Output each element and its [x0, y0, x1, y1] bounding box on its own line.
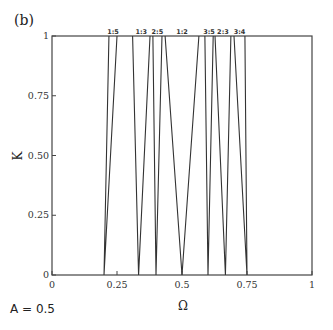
tongue-label: 3:5 — [203, 28, 215, 36]
tongue-2-3 — [215, 36, 231, 275]
tongue-label: 1:2 — [176, 28, 188, 36]
tongue-label: 2:5 — [152, 28, 164, 36]
x-tick-label: 0.75 — [236, 279, 257, 290]
tongue-2-5 — [153, 36, 162, 275]
tongue-1-3 — [133, 36, 150, 275]
y-tick-label: 0.25 — [28, 209, 49, 220]
arnold-tongues-chart: 00.250.500.75100.250.50.751ΩK1:51:32:51:… — [0, 0, 333, 330]
y-tick-label: 1 — [43, 30, 49, 41]
y-tick-label: 0.75 — [28, 90, 49, 101]
tongue-1-2 — [165, 36, 199, 275]
tongue-label: 2:3 — [217, 28, 229, 36]
x-axis-label: Ω — [178, 299, 188, 313]
tongue-label: 3:4 — [234, 28, 246, 36]
x-tick-label: 1 — [309, 279, 315, 290]
tongue-label: 1:5 — [107, 28, 119, 36]
parameter-annotation: A = 0.5 — [10, 302, 55, 316]
plot-frame — [52, 36, 312, 275]
x-tick-label: 0 — [49, 279, 55, 290]
tongue-3-5 — [205, 36, 213, 275]
tongue-1-5 — [104, 36, 117, 275]
x-tick-label: 0.5 — [174, 279, 189, 290]
x-tick-label: 0.25 — [106, 279, 127, 290]
tongue-3-4 — [234, 36, 247, 275]
tongue-label: 1:3 — [135, 28, 147, 36]
y-axis-label: K — [11, 150, 25, 160]
y-tick-label: 0.50 — [28, 150, 49, 161]
